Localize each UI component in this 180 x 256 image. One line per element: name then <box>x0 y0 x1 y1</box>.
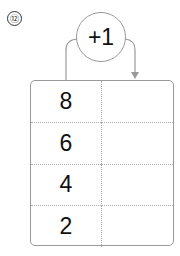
function-table: 8 6 4 2 <box>30 80 174 246</box>
operation-label: +1 <box>88 24 114 51</box>
input-cell: 2 <box>31 206 102 248</box>
output-cell[interactable] <box>102 164 173 206</box>
operation-circle: +1 <box>76 12 126 62</box>
output-cell[interactable] <box>102 81 173 123</box>
table-row: 6 <box>31 123 173 165</box>
input-cell: 4 <box>31 164 102 206</box>
arrow-down-icon <box>131 72 139 79</box>
output-cell[interactable] <box>102 123 173 165</box>
input-connector-line <box>66 39 77 80</box>
table-row: 8 <box>31 81 173 123</box>
table-row: 4 <box>31 164 173 206</box>
output-cell[interactable] <box>102 206 173 248</box>
input-cell: 8 <box>31 81 102 123</box>
table-row: 2 <box>31 206 173 248</box>
input-cell: 6 <box>31 123 102 165</box>
output-connector-line <box>125 39 135 73</box>
